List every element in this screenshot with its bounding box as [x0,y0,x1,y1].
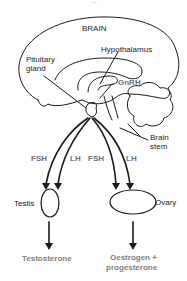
hypothalamus-label: Hypothalamus [101,45,152,54]
testis-label: Testis [14,199,34,208]
lh-left-arrow [58,118,90,184]
hormone-regulation-diagram: ... BRAIN Pituitary gland Hypothalamus G… [0,0,187,281]
ovary-shape [110,190,156,214]
ovary-label: Ovary [155,198,176,207]
gnrh-label: GnRH [118,78,141,87]
brain-stem [104,96,112,120]
cerebellum [127,82,173,126]
hypothalamus-pointer [100,52,118,84]
brain-stem-label-line1: Brain [150,133,169,142]
lh-left-label: LH [70,154,81,163]
brain-stem-label-line2: stem [150,142,167,151]
pituitary-label-line2: gland [26,64,46,73]
pituitary-label-line1: Pituitary [26,55,55,64]
fsh-right-label: FSH [88,154,104,163]
fsh-left-label: FSH [31,154,47,163]
pituitary-gland [86,102,97,116]
testosterone-label: Testosterone [22,254,72,264]
oestrogen-label-line1: Oestrogen + [110,253,157,263]
header-fragment: ... [90,0,97,5]
oestrogen-label-line2: progesterone [106,263,157,273]
testis-shape [41,189,59,217]
brain-label: BRAIN [82,24,106,33]
lh-right-label: LH [126,154,137,163]
